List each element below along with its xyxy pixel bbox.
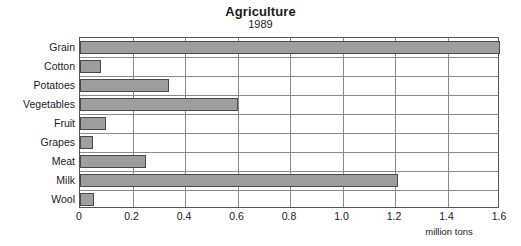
chart-title: Agriculture [0,4,521,19]
category-label-wool: Wool [1,193,75,205]
x-tick-label: 1.0 [334,210,349,223]
category-label-potatoes: Potatoes [1,79,75,91]
bar-vegetables [80,98,238,111]
category-label-grain: Grain [1,41,75,53]
category-label-grapes: Grapes [1,136,75,148]
category-label-meat: Meat [1,155,75,167]
chart-subtitle-year: 1989 [0,18,521,31]
agriculture-bar-chart: Agriculture 1989 GrainCottonPotatoesVege… [0,0,521,246]
x-tick-label: 0.8 [282,210,297,223]
x-tick-label: 0.6 [229,210,244,223]
bar-row [80,95,500,114]
x-tick-label: 1.4 [439,210,454,223]
bar-row [80,38,500,57]
bar-row [80,114,500,133]
bar-row [80,152,500,171]
bar-grain [80,41,500,54]
x-axis-title: million tons [399,226,499,237]
x-tick-label: 0.4 [177,210,192,223]
category-label-milk: Milk [1,174,75,186]
category-label-cotton: Cotton [1,60,75,72]
x-tick-label: 0 [76,210,82,223]
bar-row [80,76,500,95]
bar-meat [80,155,146,168]
bar-row [80,57,500,76]
bar-grapes [80,136,93,149]
category-label-fruit: Fruit [1,117,75,129]
bar-fruit [80,117,106,130]
x-tick-label: 1.6 [492,210,507,223]
plot-area [79,37,499,208]
x-tick-label: 0.2 [124,210,139,223]
bar-row [80,171,500,190]
bar-row [80,190,500,209]
x-tick-label: 1.2 [387,210,402,223]
bar-milk [80,174,398,187]
bar-row [80,133,500,152]
bar-cotton [80,60,101,73]
value-axis-labels: 00.20.40.60.81.01.21.41.6 [79,210,499,226]
bar-wool [80,193,94,206]
category-label-vegetables: Vegetables [1,98,75,110]
bar-potatoes [80,79,169,92]
category-axis-labels: GrainCottonPotatoesVegetablesFruitGrapes… [0,37,75,208]
